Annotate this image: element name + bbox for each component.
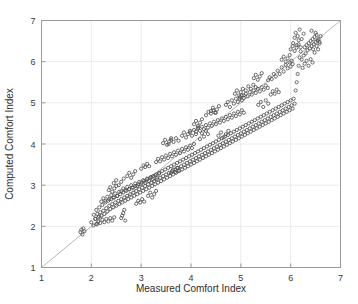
x-tick-label: 3 — [139, 273, 144, 283]
y-tick-label: 5 — [30, 98, 35, 108]
x-axis-title: Measured Comfort Index — [136, 283, 246, 294]
x-tick-label: 2 — [89, 273, 94, 283]
scatter-plot-figure: 1234567 1234567 Measured Comfort Index C… — [0, 0, 358, 304]
y-tick-label: 7 — [30, 16, 35, 26]
y-tick-label: 4 — [30, 140, 35, 150]
y-tick-label: 2 — [30, 222, 35, 232]
x-tick-label: 7 — [338, 273, 343, 283]
x-tick-label: 6 — [288, 273, 293, 283]
x-tick-label: 5 — [238, 273, 243, 283]
plot-canvas: 1234567 1234567 Measured Comfort Index C… — [0, 0, 358, 304]
y-tick-label: 6 — [30, 57, 35, 67]
x-tick-label: 4 — [188, 273, 193, 283]
x-tick-label: 1 — [39, 273, 44, 283]
y-tick-label: 1 — [30, 263, 35, 273]
y-axis-title: Computed Comfort Index — [4, 88, 15, 200]
y-tick-label: 3 — [30, 181, 35, 191]
